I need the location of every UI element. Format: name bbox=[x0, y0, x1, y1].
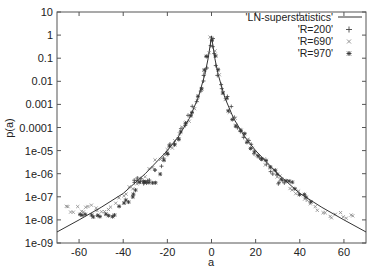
data-point bbox=[160, 164, 164, 168]
data-point bbox=[112, 213, 116, 217]
data-point bbox=[117, 204, 121, 208]
data-point bbox=[109, 206, 112, 209]
data-point bbox=[153, 181, 157, 185]
data-point bbox=[330, 216, 333, 219]
legend-item-ln-superstatistics: 'LN-superstatistics' bbox=[246, 11, 362, 23]
y-tick-label: 1e-06 bbox=[25, 168, 53, 180]
y-tick-label: 0.1 bbox=[38, 52, 53, 64]
data-layer bbox=[57, 35, 366, 232]
data-point bbox=[127, 200, 131, 204]
star-marker-icon bbox=[347, 51, 352, 56]
y-tick-label: 1 bbox=[47, 29, 53, 41]
data-point bbox=[269, 170, 273, 174]
data-point bbox=[72, 211, 75, 214]
plus-marker-icon bbox=[346, 27, 352, 33]
data-point bbox=[229, 105, 233, 109]
data-point bbox=[314, 205, 317, 208]
x-tick-label: -40 bbox=[115, 246, 131, 258]
cross-marker-icon bbox=[347, 40, 351, 44]
data-point bbox=[98, 215, 102, 219]
y-tick-label: 0.01 bbox=[32, 75, 53, 87]
data-point bbox=[339, 211, 342, 214]
y-axis-label: p(a) bbox=[3, 118, 15, 138]
legend-item-r690: 'R=690' bbox=[298, 35, 351, 47]
data-point bbox=[249, 146, 253, 150]
data-point bbox=[125, 193, 128, 196]
x-tick-label: 20 bbox=[250, 246, 262, 258]
data-point bbox=[271, 172, 275, 176]
y-tick-label: 1e-05 bbox=[25, 145, 53, 157]
data-point bbox=[290, 180, 294, 184]
data-point bbox=[143, 175, 146, 178]
data-point bbox=[131, 192, 135, 196]
scatter-points bbox=[65, 35, 355, 219]
data-point bbox=[134, 188, 138, 192]
legend-label: 'R=970' bbox=[298, 47, 333, 59]
data-point bbox=[204, 54, 208, 58]
data-point bbox=[114, 202, 117, 205]
x-tick-label: 60 bbox=[338, 246, 350, 258]
data-point bbox=[316, 209, 319, 212]
data-point bbox=[143, 180, 147, 184]
data-point bbox=[90, 204, 93, 207]
y-tick-label: 1e-08 bbox=[25, 214, 53, 226]
data-point bbox=[76, 205, 79, 208]
x-axis-label: a bbox=[208, 256, 215, 268]
data-point bbox=[153, 158, 156, 161]
x-tick-label: 40 bbox=[294, 246, 306, 258]
chart-svg: 1010.10.010.0010.00011e-051e-061e-071e-0… bbox=[0, 0, 375, 273]
legend-label: 'LN-superstatistics' bbox=[246, 11, 333, 23]
y-tick-label: 10 bbox=[41, 6, 53, 18]
y-tick-label: 1e-07 bbox=[25, 191, 53, 203]
data-point bbox=[80, 213, 84, 217]
legend: 'LN-superstatistics' 'R=200' 'R=690' 'R=… bbox=[246, 11, 362, 59]
y-tick-label: 0.001 bbox=[25, 98, 53, 110]
data-point bbox=[124, 198, 128, 202]
legend-item-r200: 'R=200' bbox=[298, 23, 352, 35]
ln-superstatistics-curve bbox=[57, 36, 366, 232]
legend-item-r970: 'R=970' bbox=[298, 47, 352, 59]
legend-label: 'R=200' bbox=[298, 23, 333, 35]
data-point bbox=[345, 217, 348, 220]
data-point bbox=[342, 215, 345, 218]
data-point bbox=[324, 211, 327, 214]
x-tick-label: -60 bbox=[71, 246, 87, 258]
data-point bbox=[147, 181, 151, 185]
data-point bbox=[107, 214, 111, 218]
data-point bbox=[162, 158, 166, 162]
y-tick-label: 1e-09 bbox=[25, 237, 53, 249]
x-tick-label: -20 bbox=[159, 246, 175, 258]
legend-label: 'R=690' bbox=[298, 35, 333, 47]
data-point bbox=[171, 146, 174, 149]
y-tick-label: 0.0001 bbox=[19, 122, 53, 134]
data-point bbox=[158, 172, 162, 176]
data-point bbox=[91, 215, 95, 219]
